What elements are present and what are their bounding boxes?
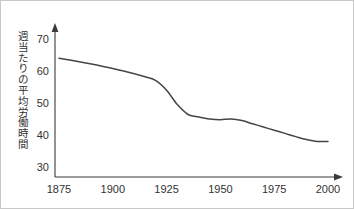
- x-tick-label: 1875: [47, 183, 71, 195]
- x-tick-label: 1950: [208, 183, 232, 195]
- y-tick-label: 60: [37, 65, 49, 77]
- y-tick-label: 70: [37, 33, 49, 45]
- y-tick-labels: 3040506070: [37, 33, 49, 173]
- data-line-series-1: [59, 58, 328, 141]
- y-tick-label: 50: [37, 97, 49, 109]
- y-tick-label: 30: [37, 161, 49, 173]
- plot-area: 187519001925195019752000 3040506070: [1, 1, 354, 209]
- chart-figure: 週当たりの平均労働時間 187519001925195019752000 304…: [0, 0, 354, 209]
- x-tick-label: 1925: [154, 183, 178, 195]
- x-axis-arrow-icon: [334, 174, 343, 181]
- y-axis-arrow-icon: [52, 23, 59, 32]
- x-tick-label: 2000: [316, 183, 340, 195]
- x-tick-labels: 187519001925195019752000: [47, 183, 340, 195]
- x-tick-label: 1975: [262, 183, 286, 195]
- x-tick-label: 1900: [101, 183, 125, 195]
- y-tick-label: 40: [37, 129, 49, 141]
